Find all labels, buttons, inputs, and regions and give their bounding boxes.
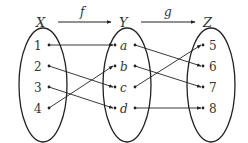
function-g-label: g bbox=[164, 5, 172, 19]
z-element-7: 7 bbox=[209, 81, 217, 95]
z-element-8: 8 bbox=[209, 102, 217, 116]
z-element-5: 5 bbox=[209, 39, 217, 53]
function-mapping-diagram: X Y Z f g 1 2 3 4 a b c d 5 6 7 8 bbox=[0, 0, 248, 143]
y-element-a: a bbox=[120, 39, 127, 53]
function-f-label: f bbox=[79, 5, 87, 19]
g-arrow-c-5 bbox=[135, 45, 201, 87]
set-z-label: Z bbox=[202, 15, 213, 30]
g-arrow-b-7 bbox=[135, 66, 201, 87]
set-x-label: X bbox=[35, 15, 46, 30]
set-y-label: Y bbox=[119, 15, 129, 30]
y-element-d: d bbox=[120, 102, 128, 116]
x-element-4: 4 bbox=[34, 102, 42, 116]
element-dots bbox=[48, 44, 205, 110]
z-element-6: 6 bbox=[209, 60, 217, 74]
g-arrow-a-6 bbox=[135, 45, 201, 66]
x-element-3: 3 bbox=[34, 81, 42, 95]
y-element-c: c bbox=[120, 81, 127, 95]
x-element-1: 1 bbox=[34, 39, 42, 53]
y-element-b: b bbox=[120, 60, 128, 74]
x-element-2: 2 bbox=[34, 60, 42, 74]
